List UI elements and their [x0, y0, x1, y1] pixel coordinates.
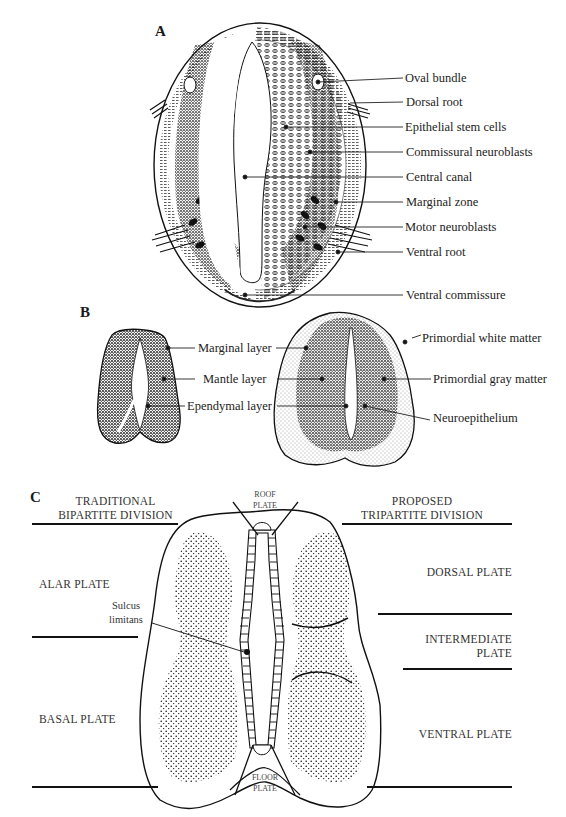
panel-b-label: B — [80, 305, 90, 320]
heading-line-1: PROPOSED — [357, 494, 487, 508]
label-alar-plate: ALAR PLATE — [39, 577, 110, 591]
label-primordial-white-matter: Primordial white matter — [422, 332, 541, 345]
sulcus-line-2: limitans — [104, 613, 148, 627]
label-roof-plate: ROOF PLATE — [248, 490, 282, 512]
panel-a-label: A — [155, 24, 166, 39]
label-central-canal: Central canal — [406, 171, 472, 184]
heading-line-2: BIPARTITE DIVISION — [53, 508, 178, 522]
intermediate-line-2: PLATE — [412, 646, 512, 660]
heading-proposed-tripartite: PROPOSED TRIPARTITE DIVISION — [357, 494, 487, 523]
sulcus-line-1: Sulcus — [104, 599, 148, 613]
label-marginal-zone: Marginal zone — [406, 196, 478, 209]
roof-line-2: PLATE — [248, 501, 282, 512]
label-intermediate-plate: INTERMEDIATE PLATE — [412, 632, 512, 661]
intermediate-line-1: INTERMEDIATE — [412, 632, 512, 646]
panel-c-label: C — [30, 490, 41, 505]
label-marginal-layer: Marginal layer — [198, 342, 272, 355]
label-commissural-neuroblasts: Commissural neuroblasts — [406, 146, 533, 159]
floor-line-2: PLATE — [246, 784, 284, 795]
heading-line-1: TRADITIONAL — [53, 494, 178, 508]
panel-a-drawing — [150, 23, 372, 307]
panel-c-drawing — [140, 502, 381, 808]
panel-b-large-section — [274, 312, 414, 466]
label-dorsal-root: Dorsal root — [406, 96, 463, 109]
label-ventral-root: Ventral root — [406, 246, 465, 259]
floor-line-1: FLOOR — [246, 773, 284, 784]
label-neuroepithelium: Neuroepithelium — [433, 412, 518, 425]
heading-traditional-bipartite: TRADITIONAL BIPARTITE DIVISION — [53, 494, 178, 523]
roof-line-1: ROOF — [248, 490, 282, 501]
label-motor-neuroblasts: Motor neuroblasts — [405, 221, 496, 234]
label-ventral-commissure: Ventral commissure — [406, 289, 506, 302]
label-primordial-gray-matter: Primordial gray matter — [433, 373, 547, 386]
label-floor-plate: FLOOR PLATE — [246, 773, 284, 795]
label-dorsal-plate: DORSAL PLATE — [420, 565, 512, 579]
label-basal-plate: BASAL PLATE — [39, 712, 116, 726]
label-sulcus-limitans: Sulcus limitans — [104, 599, 148, 626]
figure-canvas: A Oval bundle Dorsal root Epithelial ste… — [0, 0, 566, 817]
heading-line-2: TRIPARTITE DIVISION — [357, 508, 487, 522]
label-ependymal-layer: Ependymal layer — [187, 400, 272, 413]
label-epithelial-stem-cells: Epithelial stem cells — [405, 121, 506, 134]
label-mantle-layer: Mantle layer — [203, 373, 267, 386]
label-oval-bundle: Oval bundle — [405, 72, 466, 85]
label-ventral-plate: VENTRAL PLATE — [410, 727, 512, 741]
